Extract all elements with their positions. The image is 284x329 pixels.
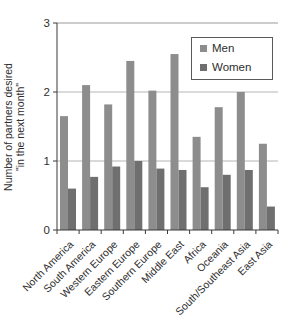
bar-women-0 bbox=[68, 189, 76, 230]
y-tick-label-1: 1 bbox=[44, 155, 50, 167]
bar-men-9 bbox=[259, 144, 267, 230]
bar-men-7 bbox=[215, 107, 223, 230]
bar-men-8 bbox=[237, 92, 245, 230]
figure: 0123North AmericaSouth AmericaWestern Eu… bbox=[0, 0, 284, 329]
y-tick-label-0: 0 bbox=[44, 224, 50, 236]
legend-swatch-men-icon bbox=[200, 45, 207, 52]
bar-chart: 0123North AmericaSouth AmericaWestern Eu… bbox=[0, 0, 284, 329]
y-axis-title-line2: "in the next month" bbox=[14, 83, 26, 171]
bar-women-9 bbox=[267, 207, 275, 230]
bar-men-2 bbox=[104, 104, 112, 230]
bar-men-3 bbox=[126, 61, 134, 230]
bar-women-5 bbox=[179, 170, 187, 230]
bar-women-8 bbox=[245, 170, 253, 230]
y-axis-title-line1: Number of partners desired bbox=[2, 63, 14, 191]
bar-women-1 bbox=[90, 177, 98, 230]
bar-women-4 bbox=[156, 169, 164, 230]
legend-label-women: Women bbox=[212, 61, 251, 73]
bar-men-4 bbox=[148, 91, 156, 230]
bar-men-5 bbox=[171, 54, 179, 230]
legend-label-men: Men bbox=[212, 42, 234, 54]
bar-women-6 bbox=[201, 187, 209, 230]
bar-women-3 bbox=[134, 161, 142, 230]
bar-men-6 bbox=[193, 137, 201, 230]
bar-women-7 bbox=[223, 175, 231, 230]
y-tick-label-3: 3 bbox=[44, 17, 50, 29]
legend-swatch-women-icon bbox=[200, 64, 207, 71]
y-tick-label-2: 2 bbox=[44, 86, 50, 98]
bar-men-1 bbox=[82, 85, 90, 230]
bar-women-2 bbox=[112, 167, 120, 230]
bar-men-0 bbox=[60, 116, 68, 230]
